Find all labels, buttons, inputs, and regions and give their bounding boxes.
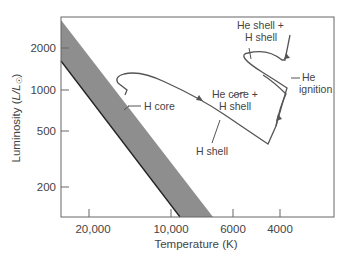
label-he-shell-h-shell-2: H shell [245,31,277,43]
label-h-shell: H shell [196,145,228,157]
y-tick-500: 500 [37,125,56,137]
main-sequence-band [61,20,213,217]
x-tick-6000: 6000 [220,223,246,235]
label-he-ignition-2: ignition [299,83,332,95]
evolutionary-track-loop-back [263,75,286,126]
track-arrow-icon [284,53,290,59]
label-h-core: H core [144,100,175,112]
label-he-core-h-shell: He core + [212,88,258,100]
x-tick-10000: 10,000 [153,223,188,235]
hr-diagram: 2000 1000 500 200 20,000 10,000 6000 400… [0,0,347,257]
x-tick-4000: 4000 [267,223,293,235]
y-tick-2000: 2000 [30,42,56,54]
x-tick-20000: 20,000 [75,223,110,235]
y-tick-1000: 1000 [30,84,56,96]
plot-frame [61,17,334,217]
label-he-shell-h-shell: He shell + [237,19,284,31]
y-axis-title: Luminosity (L/L☉) [10,73,24,162]
label-he-ignition: He [302,71,316,83]
label-he-core-h-shell-2: H shell [219,100,251,112]
x-axis-title: Temperature (K) [154,238,237,250]
y-tick-200: 200 [37,181,56,193]
